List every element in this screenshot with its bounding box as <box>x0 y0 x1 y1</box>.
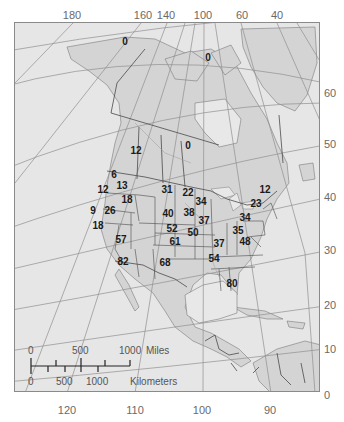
value-wyoming-idaho-south: 18 <box>121 195 132 205</box>
value-alaska: 0 <box>122 37 128 47</box>
latitude-label-60: 60 <box>324 88 336 99</box>
value-texas: 68 <box>159 258 170 268</box>
longitude-label-top-140: 140 <box>157 10 175 21</box>
longitude-label-bottom-90: 90 <box>264 405 276 416</box>
value-minnesota: 22 <box>182 188 193 198</box>
latitude-label-0: 0 <box>324 390 330 401</box>
value-north-dakota-south-dakota: 31 <box>161 185 172 195</box>
longitude-label-bottom-100: 100 <box>193 405 211 416</box>
value-alberta-saskatchewan: 12 <box>130 146 141 156</box>
value-arizona: 57 <box>115 235 126 245</box>
value-iowa: 38 <box>183 208 194 218</box>
value-virginia: 35 <box>232 226 243 236</box>
value-washington: 6 <box>111 170 117 180</box>
value-manitoba-ontario: 0 <box>185 141 191 151</box>
latitude-label-10: 10 <box>324 344 336 355</box>
value-maine: 12 <box>259 185 270 195</box>
scale-miles-1000: 1000 <box>119 346 141 356</box>
value-kansas: 52 <box>166 224 177 234</box>
value-arctic-islands: 0 <box>205 53 211 63</box>
longitude-label-top-40: 40 <box>271 10 283 21</box>
value-southern-california: 18 <box>92 221 103 231</box>
scale-km-500: 500 <box>56 377 73 387</box>
value-northern-california: 9 <box>90 206 96 216</box>
longitude-label-bottom-110: 110 <box>126 405 144 416</box>
latitude-label-30: 30 <box>324 245 336 256</box>
value-florida: 80 <box>226 279 237 289</box>
value-pennsylvania-new-york: 34 <box>239 213 250 223</box>
scale-km-0: 0 <box>28 377 34 387</box>
map-frame <box>14 22 320 392</box>
value-oregon: 12 <box>97 185 108 195</box>
value-missouri: 50 <box>187 228 198 238</box>
longitude-label-top-100: 100 <box>194 10 212 21</box>
value-illinois-indiana: 37 <box>198 216 209 226</box>
value-nevada: 26 <box>104 206 115 216</box>
scale-miles-0: 0 <box>28 346 34 356</box>
value-michigan-wisconsin: 34 <box>195 197 206 207</box>
value-new-england: 23 <box>250 199 261 209</box>
value-northern-mexico: 82 <box>117 257 128 267</box>
latitude-label-40: 40 <box>324 192 336 203</box>
value-oklahoma: 61 <box>169 237 180 247</box>
scale-miles-unit: Miles <box>146 346 169 356</box>
value-north-carolina: 48 <box>239 237 250 247</box>
value-alabama-georgia: 54 <box>208 254 219 264</box>
latitude-label-50: 50 <box>324 139 336 150</box>
longitude-label-top-60: 60 <box>236 10 248 21</box>
value-idaho: 13 <box>116 181 127 191</box>
scale-km-1000: 1000 <box>86 377 108 387</box>
longitude-label-bottom-120: 120 <box>58 405 76 416</box>
value-tennessee: 37 <box>213 239 224 249</box>
longitude-label-top-180: 180 <box>63 10 81 21</box>
scale-km-unit: Kilometers <box>130 377 177 387</box>
latitude-label-20: 20 <box>324 300 336 311</box>
longitude-label-top-160: 160 <box>134 10 152 21</box>
value-nebraska: 40 <box>162 209 173 219</box>
scale-miles-500: 500 <box>72 346 89 356</box>
